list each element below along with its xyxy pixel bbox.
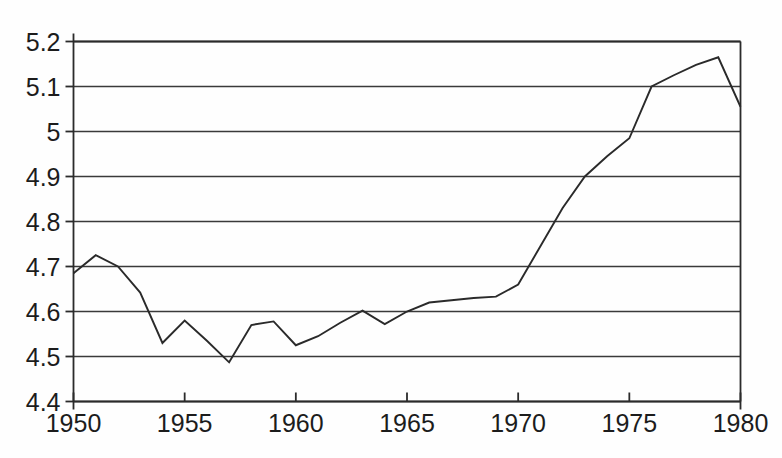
y-tick-label: 4.5 — [26, 343, 61, 371]
y-axis-tick-labels: 4.44.54.64.74.84.955.15.2 — [26, 28, 61, 416]
x-axis-tick-labels: 1950195519601965197019751980 — [46, 409, 769, 437]
data-series-group — [74, 57, 741, 362]
y-tick-label: 5.2 — [26, 28, 61, 56]
x-tick-label: 1970 — [490, 409, 546, 437]
y-tick-label: 5 — [47, 118, 61, 146]
x-tick-label: 1980 — [713, 409, 769, 437]
x-tick-label: 1960 — [268, 409, 324, 437]
chart-container: 4.44.54.64.74.84.955.15.2 19501955196019… — [0, 0, 782, 458]
x-tick-label: 1975 — [602, 409, 658, 437]
gridlines — [74, 42, 741, 402]
data-line-1 — [74, 57, 741, 362]
y-tick-label: 4.7 — [26, 253, 61, 281]
x-tick-label: 1965 — [379, 409, 435, 437]
y-tick-label: 5.1 — [26, 73, 61, 101]
line-chart: 4.44.54.64.74.84.955.15.2 19501955196019… — [0, 0, 782, 458]
y-tick-label: 4.8 — [26, 208, 61, 236]
y-tick-label: 4.9 — [26, 163, 61, 191]
x-tick-label: 1950 — [46, 409, 102, 437]
y-tick-label: 4.6 — [26, 298, 61, 326]
x-tick-label: 1955 — [157, 409, 213, 437]
